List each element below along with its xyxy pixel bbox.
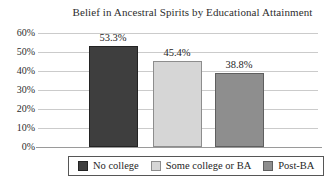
legend-label: Some college or BA — [166, 160, 251, 171]
gridline — [38, 33, 318, 34]
bar — [215, 73, 264, 147]
y-tick-label: 50% — [0, 46, 35, 58]
bar-value-label: 53.3% — [83, 32, 143, 43]
bar — [153, 61, 202, 147]
y-tick-label: 30% — [0, 84, 35, 96]
legend-item: Post-BA — [263, 160, 314, 171]
legend-item: Some college or BA — [151, 160, 251, 171]
legend-swatch — [263, 161, 273, 171]
legend: No collegeSome college or BAPost-BA — [68, 156, 324, 176]
bar-chart-figure: Belief in Ancestral Spirits by Education… — [0, 0, 331, 194]
y-tick-label: 60% — [0, 27, 35, 39]
legend-label: Post-BA — [278, 160, 314, 171]
y-tick-label: 20% — [0, 103, 35, 115]
bar-value-label: 38.8% — [209, 59, 269, 70]
y-tick-label: 0% — [0, 141, 35, 153]
legend-swatch — [78, 161, 88, 171]
legend-label: No college — [93, 160, 139, 171]
y-tick-label: 40% — [0, 65, 35, 77]
x-axis-line — [36, 147, 322, 148]
y-tick-label: 10% — [0, 122, 35, 134]
legend-item: No college — [78, 160, 139, 171]
bar — [89, 46, 138, 147]
bar-value-label: 45.4% — [147, 47, 207, 58]
legend-swatch — [151, 161, 161, 171]
